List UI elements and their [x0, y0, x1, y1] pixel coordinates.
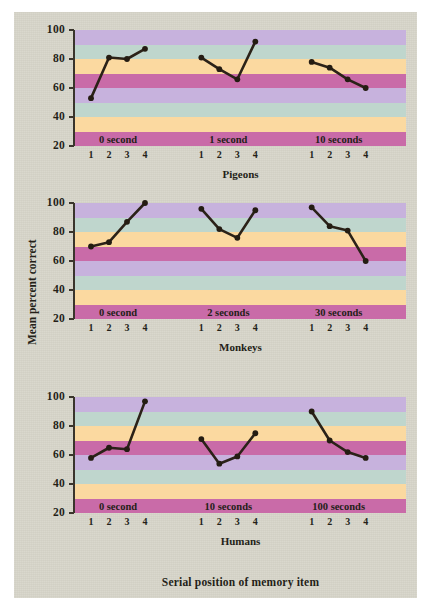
panel-humans	[75, 397, 406, 513]
data-point-marker	[106, 445, 112, 451]
series-overlay	[75, 397, 406, 513]
x-axis-tick-label: 1	[82, 149, 100, 160]
data-point-marker	[327, 223, 333, 229]
data-point-marker	[216, 461, 222, 467]
x-axis-tick-label: 1	[303, 322, 321, 333]
y-axis-tick	[69, 145, 74, 147]
data-point-marker	[234, 76, 240, 82]
x-axis-tick-label: 1	[82, 322, 100, 333]
group-label: 0 second	[58, 501, 178, 512]
group-label: 30 seconds	[279, 307, 399, 318]
data-point-marker	[234, 454, 240, 460]
y-axis-tick	[69, 289, 74, 291]
x-axis-tick-label: 4	[246, 322, 264, 333]
x-axis-tick-group: 1234	[82, 149, 154, 160]
data-point-marker	[327, 65, 333, 71]
x-axis-tick-label: 3	[339, 322, 357, 333]
x-axis-label: Serial position of memory item	[75, 576, 406, 588]
x-axis-tick-group: 1234	[192, 516, 264, 527]
x-axis-tick-group: 1234	[192, 149, 264, 160]
x-axis-tick-label: 2	[321, 149, 339, 160]
y-axis-tick	[69, 512, 74, 514]
panel-monkeys	[75, 203, 406, 319]
y-axis-tick	[69, 318, 74, 320]
data-point-marker	[142, 398, 148, 404]
panel-pigeons	[75, 30, 406, 146]
data-point-marker	[252, 207, 258, 213]
y-axis-tick-label: 40	[27, 477, 65, 489]
data-point-marker	[345, 228, 351, 234]
data-point-marker	[88, 95, 94, 101]
data-point-marker	[106, 55, 112, 61]
data-point-marker	[252, 39, 258, 45]
y-axis-tick-label: 100	[27, 196, 65, 208]
x-axis-tick-label: 2	[210, 149, 228, 160]
x-axis-tick-group: 1234	[82, 322, 154, 333]
group-label: 10 seconds	[168, 501, 288, 512]
x-axis-tick-label: 4	[246, 149, 264, 160]
x-axis-tick-label: 2	[100, 516, 118, 527]
x-axis-tick-label: 1	[192, 322, 210, 333]
y-axis-tick	[69, 396, 74, 398]
series-line	[201, 433, 255, 463]
series-line	[312, 62, 366, 88]
data-point-marker	[88, 455, 94, 461]
x-axis-tick-label: 3	[339, 149, 357, 160]
figure-root: 204060801000 second12341 second123410 se…	[0, 0, 431, 613]
x-axis-tick-label: 1	[303, 516, 321, 527]
data-point-marker	[198, 206, 204, 212]
data-point-marker	[216, 226, 222, 232]
x-axis-tick-group: 1234	[303, 149, 375, 160]
data-point-marker	[142, 200, 148, 206]
series-overlay	[75, 30, 406, 146]
data-point-marker	[124, 56, 130, 62]
data-point-marker	[309, 409, 315, 415]
y-axis-tick-label: 80	[27, 225, 65, 237]
x-axis-tick-label: 2	[321, 322, 339, 333]
x-axis-tick-label: 4	[357, 516, 375, 527]
y-axis-tick	[69, 202, 74, 204]
y-axis-tick	[69, 425, 74, 427]
x-axis-tick-label: 4	[136, 322, 154, 333]
series-line	[91, 203, 145, 247]
group-label: 10 seconds	[279, 134, 399, 145]
x-axis-tick-label: 3	[339, 516, 357, 527]
x-axis-tick-group: 1234	[82, 516, 154, 527]
x-axis-tick-label: 1	[303, 149, 321, 160]
data-point-marker	[309, 59, 315, 65]
data-point-marker	[234, 235, 240, 241]
x-axis-tick-label: 4	[136, 149, 154, 160]
y-axis-label: Mean percent correct	[26, 239, 38, 345]
x-axis-tick-label: 1	[192, 516, 210, 527]
series-line	[201, 209, 255, 238]
data-point-marker	[198, 436, 204, 442]
x-axis-tick-label: 1	[82, 516, 100, 527]
data-point-marker	[252, 430, 258, 436]
x-axis-tick-label: 3	[118, 322, 136, 333]
y-axis-tick	[69, 116, 74, 118]
x-axis-tick-label: 2	[321, 516, 339, 527]
data-point-marker	[124, 446, 130, 452]
y-axis-tick-label: 100	[27, 23, 65, 35]
x-axis-tick-label: 2	[100, 322, 118, 333]
x-axis-tick-label: 2	[210, 322, 228, 333]
group-label: 0 second	[58, 307, 178, 318]
data-point-marker	[345, 449, 351, 455]
series-line	[91, 49, 145, 98]
group-label: 100 seconds	[279, 501, 399, 512]
series-line	[91, 401, 145, 458]
x-axis-tick-label: 2	[210, 516, 228, 527]
data-point-marker	[142, 46, 148, 52]
y-axis-tick	[69, 87, 74, 89]
x-axis-tick-label: 4	[136, 516, 154, 527]
panel-title-monkeys: Monkeys	[75, 341, 406, 353]
data-point-marker	[198, 55, 204, 61]
y-axis-tick-label: 40	[27, 110, 65, 122]
data-point-marker	[216, 66, 222, 72]
data-point-marker	[363, 258, 369, 264]
data-point-marker	[106, 239, 112, 245]
y-axis-tick	[69, 260, 74, 262]
x-axis-tick-label: 4	[246, 516, 264, 527]
x-axis-tick-group: 1234	[303, 516, 375, 527]
panel-title-pigeons: Pigeons	[75, 168, 406, 180]
